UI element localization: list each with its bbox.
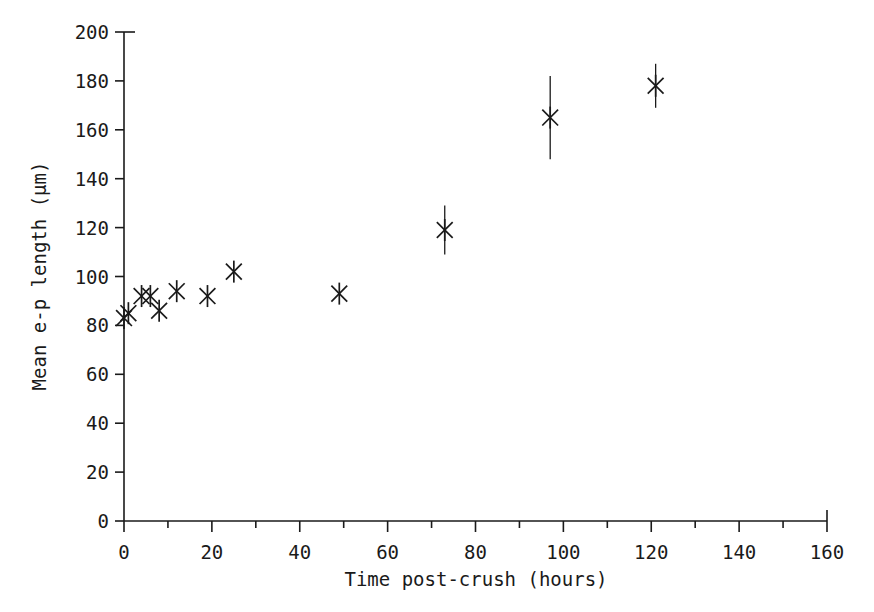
y-axis-title: Mean e-p length (µm): [28, 162, 50, 391]
x-axis-tick-labels: 020406080100120140160: [118, 541, 844, 563]
y-tick-label: 180: [75, 70, 109, 92]
y-tick-label: 200: [75, 21, 109, 43]
y-tick-label: 20: [86, 461, 109, 483]
data-point: [142, 285, 158, 307]
y-tick-label: 160: [75, 119, 109, 141]
x-tick-label: 120: [634, 541, 668, 563]
x-axis-title: Time post-crush (hours): [344, 568, 607, 590]
scatter-plot-svg: 020406080100120140160180200 020406080100…: [0, 0, 874, 612]
data-point: [648, 64, 664, 108]
y-tick-label: 100: [75, 266, 109, 288]
data-point: [542, 76, 558, 159]
y-axis-tick-labels: 020406080100120140160180200: [75, 21, 109, 532]
x-tick-label: 0: [118, 541, 129, 563]
x-tick-label: 40: [288, 541, 311, 563]
x-axis-ticks: [124, 521, 827, 532]
y-tick-label: 140: [75, 168, 109, 190]
x-tick-label: 60: [376, 541, 399, 563]
x-tick-label: 160: [810, 541, 844, 563]
x-tick-label: 100: [546, 541, 580, 563]
data-points-layer: [116, 64, 663, 329]
data-point: [226, 261, 242, 283]
y-tick-label: 0: [98, 510, 109, 532]
y-axis-ticks: [115, 32, 124, 521]
data-point: [134, 285, 150, 307]
y-tick-label: 40: [86, 412, 109, 434]
data-point: [120, 302, 136, 324]
x-tick-label: 20: [200, 541, 223, 563]
y-tick-label: 80: [86, 314, 109, 336]
x-tick-label: 80: [464, 541, 487, 563]
data-point: [200, 285, 216, 307]
x-tick-label: 140: [722, 541, 756, 563]
data-point: [437, 206, 453, 255]
data-point: [169, 280, 185, 302]
data-point: [331, 283, 347, 305]
y-tick-label: 120: [75, 217, 109, 239]
chart-figure: 020406080100120140160180200 020406080100…: [0, 0, 874, 612]
y-tick-label: 60: [86, 363, 109, 385]
data-point: [151, 300, 167, 322]
